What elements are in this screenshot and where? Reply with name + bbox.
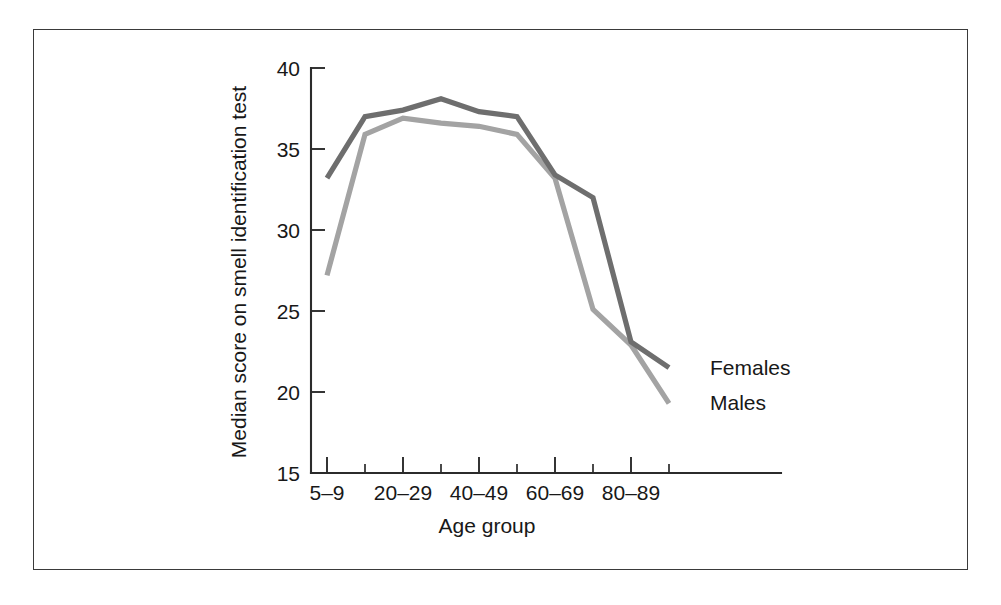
figure-frame <box>33 29 968 570</box>
